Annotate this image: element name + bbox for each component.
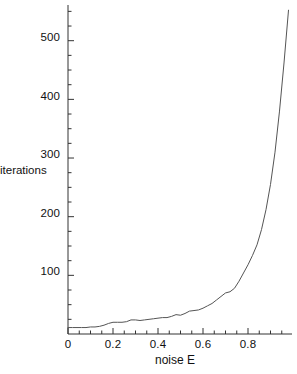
x-tick-label-0-6: 0.6 [189,338,217,350]
x-tick-label-0-8: 0.8 [234,338,262,350]
x-tick-label-0-4: 0.4 [144,338,172,350]
plot-canvas [0,0,297,374]
y-axis-label: iterations [0,164,64,176]
y-axis-ticks [68,11,74,319]
y-tick-label-500: 500 [24,31,60,43]
chart-figure: 100 200 300 400 500 iterations 0 0.2 0.4… [0,0,297,374]
y-tick-label-400: 400 [24,90,60,102]
y-tick-label-200: 200 [24,207,60,219]
data-series-line [68,10,289,327]
x-tick-label-0: 0 [54,338,82,350]
x-tick-label-0-2: 0.2 [99,338,127,350]
y-tick-label-100: 100 [24,265,60,277]
y-tick-label-300: 300 [24,148,60,160]
x-axis-ticks [68,328,282,334]
x-axis-label: noise E [60,353,290,367]
